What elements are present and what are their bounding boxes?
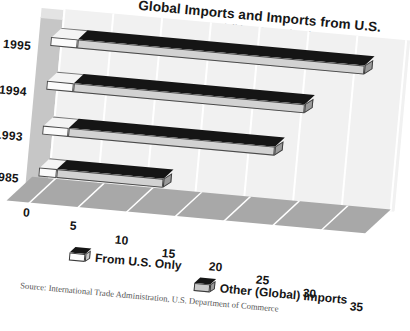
xtick-label-5: 5 (69, 218, 77, 233)
left-wall-top (41, 8, 64, 20)
ytick-label-1993: 1993 (0, 127, 23, 143)
ytick-label-1985: 1985 (0, 169, 20, 185)
chart-canvas: Global Imports and Imports from U.S. (bi… (0, 0, 410, 331)
bar-front-face (38, 167, 57, 178)
xtick-label-20: 20 (208, 259, 223, 274)
xtick-label-0: 0 (22, 205, 30, 220)
legend-swatch-front (194, 283, 211, 292)
legend-swatch-side (85, 251, 91, 262)
ytick-label-1995: 1995 (3, 37, 32, 53)
legend-swatch-side (209, 281, 215, 292)
legend-swatch-front (69, 253, 86, 262)
xtick-label-35: 35 (349, 299, 364, 314)
xtick-label-10: 10 (114, 233, 129, 248)
plot-area (24, 17, 410, 236)
ytick-label-1994: 1994 (0, 83, 27, 99)
